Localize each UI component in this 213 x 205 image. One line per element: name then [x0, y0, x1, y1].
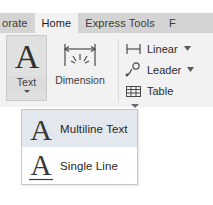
panel-divider — [118, 39, 119, 103]
letter-a-icon: A — [26, 113, 56, 145]
window-top-edge — [0, 0, 213, 13]
leader-dropdown-arrow[interactable] — [187, 67, 194, 72]
tab-featured-clipped[interactable]: F — [162, 13, 183, 33]
tab-express-tools[interactable]: Express Tools — [78, 13, 162, 33]
tab-collaborate[interactable]: orate — [0, 13, 35, 33]
svg-text:A: A — [31, 150, 52, 181]
table-button[interactable]: Table — [124, 80, 196, 101]
tab-home-label: Home — [42, 17, 72, 29]
svg-text:A: A — [14, 40, 39, 72]
text-tool-button[interactable]: A Text — [6, 35, 47, 101]
text-tool-label: Text — [17, 77, 36, 88]
leader-button[interactable]: Leader — [124, 59, 196, 80]
linear-dimension-button[interactable]: Linear — [124, 38, 196, 59]
menu-item-single-line[interactable]: A Single Line — [22, 147, 137, 184]
svg-text:A: A — [30, 113, 52, 145]
menu-item-multiline-text-label: Multiline Text — [60, 123, 128, 135]
leader-icon — [124, 61, 142, 79]
dimension-tool-button[interactable]: Dimension — [47, 35, 113, 101]
ribbon-panel-annotation: A Text — [0, 33, 213, 107]
linear-dimension-icon — [124, 40, 142, 58]
text-tool-dropdown-menu: A Multiline Text A Single Line — [21, 109, 138, 185]
menu-item-single-line-label: Single Line — [60, 160, 118, 172]
table-grid-icon — [124, 82, 142, 100]
panel-expand-chevron-icon[interactable] — [131, 104, 139, 108]
tab-home[interactable]: Home — [35, 13, 79, 33]
linear-dimension-label: Linear — [147, 43, 178, 55]
application-window: orate Home Express Tools F A Text — [0, 0, 213, 205]
tab-express-tools-label: Express Tools — [85, 17, 155, 29]
leader-label: Leader — [147, 64, 181, 76]
tab-collaborate-label: orate — [2, 17, 28, 29]
table-label: Table — [147, 85, 173, 97]
dimension-tool-label: Dimension — [55, 75, 105, 86]
linear-dropdown-arrow[interactable] — [184, 46, 191, 51]
chevron-down-icon[interactable] — [24, 90, 30, 93]
annotation-small-button-group: Linear — [124, 38, 196, 101]
ribbon-tab-strip: orate Home Express Tools F — [0, 13, 213, 33]
dimension-icon — [47, 35, 113, 75]
menu-item-multiline-text[interactable]: A Multiline Text — [22, 110, 137, 147]
text-tool-caption-area[interactable]: Text — [7, 76, 46, 93]
letter-a-underline-icon: A — [26, 150, 56, 182]
letter-a-icon: A — [7, 36, 46, 76]
tab-featured-clipped-label: F — [169, 17, 176, 29]
